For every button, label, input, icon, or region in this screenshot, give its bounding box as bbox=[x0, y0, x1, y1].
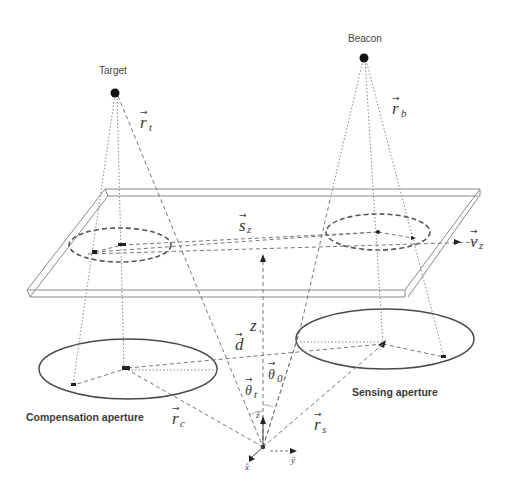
beacon-rays bbox=[300, 60, 444, 357]
svg-text:s: s bbox=[239, 216, 246, 235]
x-axis-label: x̂ bbox=[244, 462, 249, 472]
compensation-vector-label: → r c bbox=[172, 403, 185, 429]
aperture-vectors bbox=[71, 340, 446, 386]
svg-text:b: b bbox=[401, 107, 407, 119]
optical-geometry-diagram: Target Beacon → r t → r b → s z → v z z … bbox=[0, 0, 509, 497]
velocity-vector-label: → v z bbox=[470, 226, 484, 251]
y-axis-label: ŷ bbox=[290, 455, 295, 465]
svg-text:v: v bbox=[470, 232, 478, 251]
theta-t-label: → θ t bbox=[245, 374, 258, 400]
svg-text:r: r bbox=[392, 99, 399, 118]
height-label: z , bbox=[249, 316, 262, 335]
svg-text:c: c bbox=[180, 417, 185, 429]
coordinate-axes bbox=[249, 416, 297, 462]
sensing-vector-label: → r s bbox=[314, 409, 326, 435]
plate-vectors bbox=[88, 230, 480, 254]
svg-text:z: z bbox=[246, 223, 252, 235]
target-vector-label: → r t bbox=[140, 107, 153, 133]
svg-text:d: d bbox=[235, 335, 244, 354]
beacon-point bbox=[360, 54, 369, 63]
target-point bbox=[111, 89, 120, 98]
svg-text:z: z bbox=[478, 239, 484, 251]
svg-text:z: z bbox=[249, 316, 257, 335]
svg-text:r: r bbox=[140, 113, 147, 132]
separation-vector-label: → s z bbox=[239, 210, 252, 235]
z-axis-label: ẑ bbox=[255, 410, 260, 420]
svg-text:r: r bbox=[314, 415, 321, 434]
svg-text:0: 0 bbox=[277, 372, 283, 384]
diagram-canvas: Target Beacon → r t → r b → s z → v z z … bbox=[0, 0, 509, 497]
sensing-aperture-label: Sensing aperture bbox=[352, 386, 438, 398]
svg-text:r: r bbox=[172, 409, 179, 428]
baseline-vector-label: → d bbox=[235, 329, 244, 354]
svg-text:t: t bbox=[254, 388, 258, 400]
target-label: Target bbox=[99, 65, 127, 76]
svg-text:θ: θ bbox=[268, 367, 275, 382]
sensing-aperture-ellipse bbox=[296, 309, 474, 369]
svg-text:t: t bbox=[149, 121, 153, 133]
theta-0-label: → θ 0 bbox=[268, 358, 283, 384]
phase-screen-plate bbox=[27, 189, 480, 297]
velocity-arrow-icon bbox=[454, 239, 461, 245]
beacon-label: Beacon bbox=[348, 33, 382, 44]
beacon-vector-label: → r b bbox=[392, 93, 407, 119]
compensation-aperture-label: Compensation aperture bbox=[26, 411, 144, 423]
svg-text:,: , bbox=[259, 321, 262, 333]
svg-text:s: s bbox=[322, 423, 326, 435]
svg-text:θ: θ bbox=[245, 383, 252, 398]
target-rays bbox=[73, 95, 263, 447]
